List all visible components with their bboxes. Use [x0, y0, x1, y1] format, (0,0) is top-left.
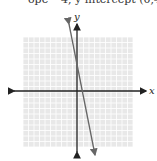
coordinate-plane: x y	[0, 0, 157, 161]
x-axis-label: x	[149, 85, 155, 96]
y-axis-label: y	[73, 11, 80, 22]
grid	[23, 37, 133, 147]
